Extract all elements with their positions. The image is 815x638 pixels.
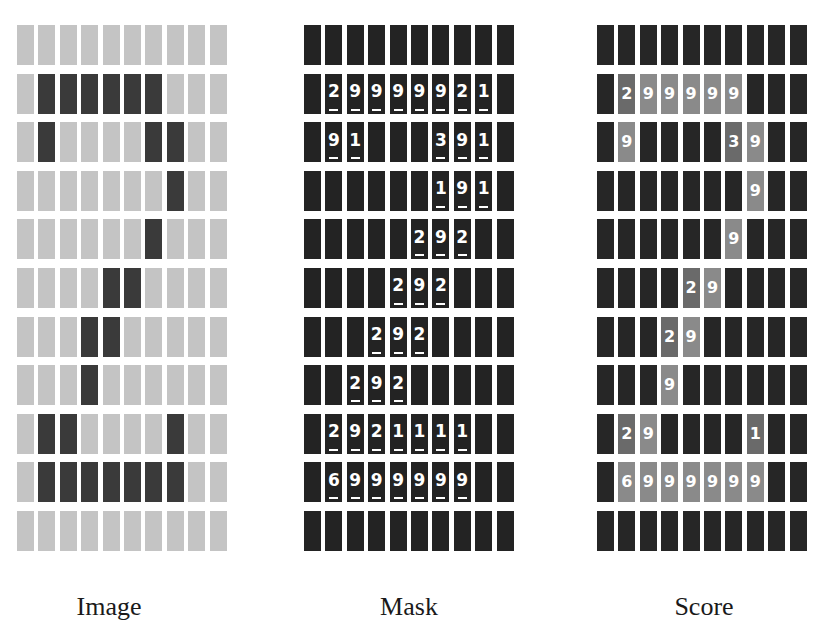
image-cell-light (167, 219, 184, 259)
score-cell: 9 (683, 317, 700, 357)
score-cell (790, 365, 807, 405)
image-cell-dark (81, 462, 98, 502)
score-cell (704, 317, 721, 357)
image-cell-light (188, 219, 205, 259)
score-cell: 9 (725, 74, 742, 114)
score-cell (790, 25, 807, 65)
image-cell-light (210, 462, 227, 502)
mask-cell (411, 171, 428, 211)
image-cell-light (81, 219, 98, 259)
mask-cell (325, 365, 342, 405)
mask-cell-value: 1 (349, 132, 361, 153)
image-cell-light (145, 268, 162, 308)
score-cell (704, 414, 721, 454)
image-cell-light (38, 219, 55, 259)
image-cell-light (81, 511, 98, 551)
image-cell-light (60, 511, 77, 551)
image-cell-dark (81, 317, 98, 357)
image-grid (17, 25, 227, 551)
mask-cell-value: 9 (349, 423, 361, 444)
mask-cell (497, 219, 514, 259)
image-cell-dark (81, 74, 98, 114)
score-cell (640, 365, 657, 405)
mask-cell: 9 (390, 74, 407, 114)
mask-cell-value: 6 (328, 472, 340, 493)
score-cell (790, 74, 807, 114)
image-cell-light (60, 171, 77, 211)
mask-cell: 6 (325, 462, 342, 502)
mask-cell: 9 (368, 462, 385, 502)
image-cell-light (210, 74, 227, 114)
score-cell (661, 414, 678, 454)
score-cell-value: 2 (621, 86, 632, 102)
mask-cell-value: 2 (392, 277, 404, 298)
score-cell (747, 25, 764, 65)
image-cell-light (38, 25, 55, 65)
mask-cell-value: 2 (456, 229, 468, 250)
image-cell-dark (124, 462, 141, 502)
score-cell (618, 317, 635, 357)
score-cell (683, 511, 700, 551)
score-cell: 9 (747, 122, 764, 162)
mask-cell-value: 2 (414, 326, 426, 347)
score-cell (683, 414, 700, 454)
mask-cell (497, 74, 514, 114)
image-cell-dark (167, 462, 184, 502)
mask-cell: 1 (475, 122, 492, 162)
score-cell-value: 1 (750, 426, 761, 442)
score-cell (661, 171, 678, 211)
score-cell-value: 9 (750, 474, 761, 490)
score-cell (597, 171, 614, 211)
mask-cell: 9 (454, 122, 471, 162)
mask-cell: 9 (368, 365, 385, 405)
image-cell-light (81, 414, 98, 454)
mask-cell: 9 (390, 317, 407, 357)
score-cell (725, 317, 742, 357)
score-cell (661, 25, 678, 65)
mask-cell (304, 365, 321, 405)
score-cell: 9 (661, 74, 678, 114)
score-cell-value: 9 (707, 86, 718, 102)
image-cell-light (17, 317, 34, 357)
image-cell-light (124, 317, 141, 357)
score-panel: 29999993999292992916999999 (597, 25, 807, 551)
mask-cell: 2 (454, 74, 471, 114)
mask-cell: 1 (475, 74, 492, 114)
mask-cell: 1 (432, 171, 449, 211)
mask-cell (325, 25, 342, 65)
image-cell-light (17, 268, 34, 308)
mask-cell (390, 219, 407, 259)
mask-cell: 2 (368, 317, 385, 357)
score-cell (683, 171, 700, 211)
mask-cell (454, 317, 471, 357)
mask-cell-value: 2 (392, 375, 404, 396)
score-cell (640, 25, 657, 65)
image-cell-dark (103, 268, 120, 308)
mask-cell-value: 3 (435, 132, 447, 153)
score-cell (790, 317, 807, 357)
image-cell-light (103, 219, 120, 259)
image-cell-light (188, 414, 205, 454)
mask-cell-value: 9 (414, 277, 426, 298)
score-cell (597, 511, 614, 551)
score-cell (597, 317, 614, 357)
score-cell (640, 268, 657, 308)
image-cell-light (17, 511, 34, 551)
score-cell (683, 25, 700, 65)
mask-cell: 9 (454, 462, 471, 502)
mask-cell-value: 1 (456, 423, 468, 444)
mask-cell (432, 511, 449, 551)
mask-cell (325, 268, 342, 308)
mask-cell: 9 (347, 74, 364, 114)
mask-cell (304, 122, 321, 162)
image-cell-light (188, 365, 205, 405)
mask-cell-value: 9 (435, 472, 447, 493)
mask-cell: 9 (325, 122, 342, 162)
score-cell-value: 9 (728, 86, 739, 102)
mask-cell (411, 365, 428, 405)
mask-cell: 2 (411, 317, 428, 357)
image-cell-light (17, 414, 34, 454)
image-cell-light (60, 317, 77, 357)
image-cell-light (60, 122, 77, 162)
mask-cell (454, 25, 471, 65)
